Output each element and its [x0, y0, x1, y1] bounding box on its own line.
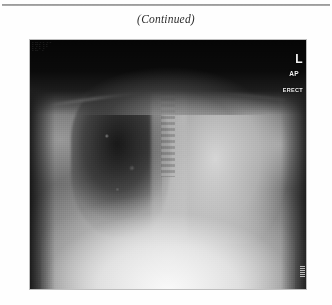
position-marker-erect: ERECT: [283, 88, 303, 94]
film-grain: [30, 40, 306, 289]
film-metadata-burnin: ________ ____ ____ __ ____ __ ___ _____ …: [32, 41, 104, 51]
radiograph-image: ________ ____ ____ __ ____ __ ___ _____ …: [30, 40, 306, 289]
laterality-marker-l: L: [295, 53, 303, 65]
page-top-rule: [2, 4, 330, 6]
projection-marker-ap: AP: [289, 71, 299, 78]
scanned-page: (Continued) ________ ____ ____ __ ____ _…: [0, 0, 332, 305]
radiograph-figure: ________ ____ ____ __ ____ __ ___ _____ …: [30, 40, 306, 289]
figure-caption: (Continued): [0, 13, 332, 25]
film-edge-burnin: [300, 266, 305, 277]
